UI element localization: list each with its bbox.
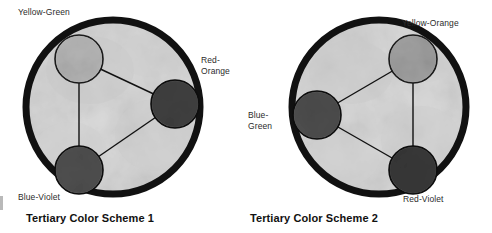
swatch-blue-green-texture bbox=[294, 92, 340, 138]
figure-tertiary-color-scheme-2: Yellow-Orange Blue- Green Red-Violet Ter… bbox=[246, 0, 492, 233]
color-wheel-1-graphic bbox=[0, 0, 246, 210]
figure-tertiary-color-scheme-1: Yellow-Green Red- Orange Blue-Violet Ter… bbox=[0, 0, 246, 233]
swatch-red-orange-texture bbox=[152, 81, 198, 127]
label-yellow-green: Yellow-Green bbox=[18, 7, 70, 18]
color-wheel-2-graphic bbox=[246, 0, 492, 210]
page-edge-mark bbox=[0, 196, 3, 210]
swatch-yellow-orange-texture bbox=[390, 36, 436, 82]
figure-1-caption: Tertiary Color Scheme 1 bbox=[26, 212, 154, 224]
color-wheel-1 bbox=[0, 0, 246, 210]
swatch-blue-violet-texture bbox=[56, 147, 102, 193]
figure-2-caption: Tertiary Color Scheme 2 bbox=[250, 212, 378, 224]
label-blue-green: Blue- Green bbox=[248, 110, 272, 131]
label-red-orange: Red- Orange bbox=[201, 55, 230, 76]
label-red-violet: Red-Violet bbox=[403, 194, 444, 205]
label-yellow-orange: Yellow-Orange bbox=[402, 18, 459, 29]
color-wheel-2 bbox=[246, 0, 492, 210]
label-blue-violet: Blue-Violet bbox=[18, 192, 60, 203]
swatch-red-violet-texture bbox=[390, 147, 436, 193]
swatch-yellow-green-texture bbox=[56, 36, 102, 82]
